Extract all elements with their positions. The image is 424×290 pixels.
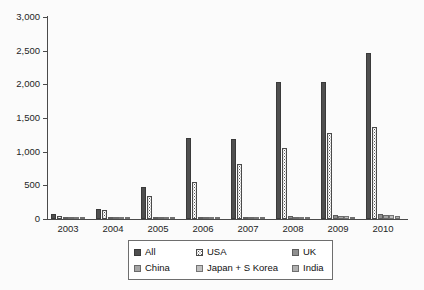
chart-legend: AllUSAUKChinaJapan + S KoreaIndia xyxy=(128,240,333,280)
legend-label: China xyxy=(145,263,170,273)
legend-label: All xyxy=(145,247,156,257)
y-axis-label: 0 xyxy=(0,214,40,224)
bar-china-2005 xyxy=(158,217,163,219)
bar-japan-s-korea-2006 xyxy=(209,217,214,219)
bar-uk-2004 xyxy=(108,217,113,219)
y-axis-label: 3,000 xyxy=(0,12,40,22)
legend-label: USA xyxy=(207,247,227,257)
legend-swatch-icon xyxy=(292,265,299,272)
bar-group xyxy=(141,17,175,219)
bar-uk-2010 xyxy=(378,214,383,219)
y-axis-label: 2,000 xyxy=(0,79,40,89)
bar-usa-2008 xyxy=(282,148,287,219)
y-axis-label: 1,500 xyxy=(0,113,40,123)
x-axis-label-2010: 2010 xyxy=(361,223,405,234)
bar-all-2006 xyxy=(186,138,191,219)
bar-usa-2005 xyxy=(147,196,152,219)
x-axis-label-2004: 2004 xyxy=(91,223,135,234)
bar-all-2010 xyxy=(366,53,371,219)
bar-india-2007 xyxy=(260,217,265,219)
bar-chart: 05001,0001,5002,0002,5003,000 2003200420… xyxy=(0,0,424,290)
bar-usa-2009 xyxy=(327,133,332,219)
x-axis-label-2003: 2003 xyxy=(46,223,90,234)
bar-india-2009 xyxy=(350,217,355,219)
legend-swatch-icon xyxy=(196,265,203,272)
bar-uk-2003 xyxy=(63,217,68,219)
bar-all-2009 xyxy=(321,82,326,219)
legend-item-usa[interactable]: USA xyxy=(196,247,292,257)
legend-label: Japan + S Korea xyxy=(207,263,278,273)
bar-group xyxy=(276,17,310,219)
bar-uk-2006 xyxy=(198,217,203,219)
bar-usa-2010 xyxy=(372,127,377,219)
y-axis-tick xyxy=(43,219,48,220)
bar-japan-s-korea-2010 xyxy=(389,215,394,219)
x-axis-label-2007: 2007 xyxy=(226,223,270,234)
bar-india-2004 xyxy=(125,217,130,219)
legend-item-india[interactable]: India xyxy=(292,263,339,273)
legend-item-china[interactable]: China xyxy=(134,263,196,273)
bar-india-2006 xyxy=(215,217,220,219)
bar-india-2010 xyxy=(395,216,400,219)
bar-japan-s-korea-2007 xyxy=(254,217,259,219)
bar-all-2004 xyxy=(96,209,101,219)
bar-japan-s-korea-2005 xyxy=(164,217,169,219)
x-axis-label-2008: 2008 xyxy=(271,223,315,234)
legend-item-uk[interactable]: UK xyxy=(292,247,339,257)
x-axis-label-2006: 2006 xyxy=(181,223,225,234)
bar-group xyxy=(186,17,220,219)
legend-label: India xyxy=(303,263,324,273)
bar-china-2009 xyxy=(338,216,343,219)
bar-uk-2008 xyxy=(288,216,293,219)
bar-group xyxy=(231,17,265,219)
bar-all-2003 xyxy=(51,214,56,219)
bar-india-2005 xyxy=(170,217,175,219)
bar-uk-2007 xyxy=(243,217,248,219)
bar-all-2005 xyxy=(141,187,146,219)
bar-japan-s-korea-2009 xyxy=(344,216,349,219)
bar-japan-s-korea-2004 xyxy=(119,217,124,219)
bar-usa-2003 xyxy=(57,216,62,219)
bar-group xyxy=(321,17,355,219)
bar-china-2007 xyxy=(248,217,253,219)
legend-label: UK xyxy=(303,247,316,257)
bar-china-2008 xyxy=(293,217,298,219)
bar-uk-2009 xyxy=(333,215,338,219)
legend-swatch-icon xyxy=(196,249,203,256)
legend-swatch-icon xyxy=(134,265,141,272)
x-axis-label-2009: 2009 xyxy=(316,223,360,234)
bar-group xyxy=(366,17,400,219)
bar-group xyxy=(51,17,85,219)
legend-item-all[interactable]: All xyxy=(134,247,196,257)
y-axis-label: 500 xyxy=(0,180,40,190)
bar-group xyxy=(96,17,130,219)
bar-japan-s-korea-2008 xyxy=(299,217,304,219)
bar-india-2003 xyxy=(80,217,85,219)
legend-swatch-icon xyxy=(292,249,299,256)
bar-all-2008 xyxy=(276,82,281,219)
y-axis-label: 1,000 xyxy=(0,147,40,157)
bar-india-2008 xyxy=(305,217,310,219)
y-axis-label: 2,500 xyxy=(0,46,40,56)
x-axis-line xyxy=(47,219,408,220)
bar-china-2004 xyxy=(113,217,118,219)
bar-all-2007 xyxy=(231,139,236,219)
bar-usa-2007 xyxy=(237,164,242,219)
bar-china-2003 xyxy=(68,217,73,219)
x-axis-label-2005: 2005 xyxy=(136,223,180,234)
bar-china-2006 xyxy=(203,217,208,219)
bar-usa-2004 xyxy=(102,210,107,219)
legend-swatch-icon xyxy=(134,249,141,256)
bar-usa-2006 xyxy=(192,182,197,219)
bar-japan-s-korea-2003 xyxy=(74,217,79,219)
bar-uk-2005 xyxy=(153,217,158,219)
legend-item-japan-s-korea[interactable]: Japan + S Korea xyxy=(196,263,292,273)
bar-china-2010 xyxy=(383,215,388,219)
plot-area xyxy=(47,17,407,219)
